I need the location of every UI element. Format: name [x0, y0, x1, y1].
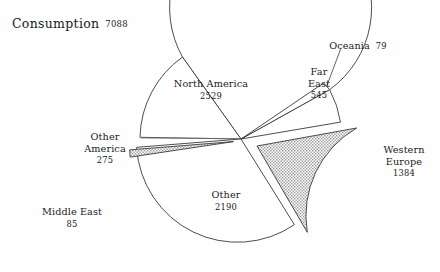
slice-label-far-east: Far East 545	[308, 66, 330, 102]
slice-label-north-america-value: 2529	[174, 91, 248, 103]
slice-label-western-europe-line1: Western	[383, 144, 424, 155]
slice-label-far-east-line2: East	[308, 78, 330, 89]
slice-label-oceania-value: 79	[376, 41, 387, 51]
pie-chart-figure: Consumption7088	[0, 0, 440, 272]
slice-label-other-name: Other	[212, 189, 241, 200]
slice-label-other-america-line1: Other	[91, 131, 120, 142]
slice-label-oceania-name: Oceania	[329, 40, 370, 51]
slice-label-other-america-value: 275	[84, 155, 126, 167]
slice-label-other: Other 2190	[212, 189, 241, 213]
slice-label-north-america: North America 2529	[174, 78, 248, 102]
slice-label-western-europe: Western Europe 1384	[383, 144, 424, 180]
slice-label-middle-east-name: Middle East	[42, 206, 102, 217]
slice-label-middle-east: Middle East 85	[42, 206, 102, 230]
slice-label-far-east-line1: Far	[311, 66, 328, 77]
slice-label-other-america: Other America 275	[84, 131, 126, 167]
slice-label-western-europe-line2: Europe	[386, 156, 422, 167]
slice-label-far-east-value: 545	[308, 90, 330, 102]
slice-label-other-america-line2: America	[84, 143, 126, 154]
slice-label-middle-east-value: 85	[42, 219, 102, 231]
slice-label-western-europe-value: 1384	[383, 168, 424, 180]
slice-label-oceania: Oceania79	[329, 40, 387, 53]
slice-label-other-value: 2190	[212, 202, 241, 214]
slice-label-north-america-name: North America	[174, 78, 248, 89]
